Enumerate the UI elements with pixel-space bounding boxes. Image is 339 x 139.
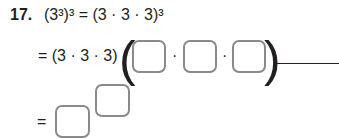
right-parenthesis: ) <box>264 34 281 84</box>
multiply-dot: · <box>222 47 227 65</box>
answer-box-base[interactable] <box>55 105 90 138</box>
equation-line-2-prefix: = (3 · 3 · 3) · <box>38 47 127 65</box>
equation-line-3-prefix: = <box>37 113 46 131</box>
problem-number: 17. <box>10 6 32 24</box>
answer-box-exponent[interactable] <box>95 84 130 117</box>
equation-line-1: (3³)³ = (3 · 3 · 3)³ <box>44 6 164 24</box>
reason-blank-line[interactable] <box>274 63 339 64</box>
multiply-dot: · <box>172 47 177 65</box>
answer-box-factor-1[interactable] <box>132 40 166 73</box>
answer-box-factor-3[interactable] <box>232 40 266 73</box>
answer-box-factor-2[interactable] <box>183 40 217 73</box>
